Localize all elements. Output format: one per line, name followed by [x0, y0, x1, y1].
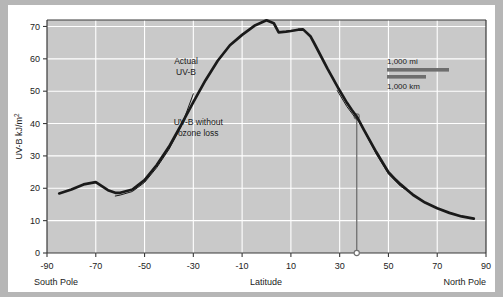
y-tick-label: 50 [30, 86, 40, 96]
south-pole-label: South Pole [34, 277, 78, 287]
x-tick-label: -90 [40, 261, 53, 271]
chart-canvas: 010203040506070 -90-70-50-30-10103050709… [8, 5, 495, 292]
x-tick-label: 70 [432, 261, 442, 271]
y-tick-label: 30 [30, 151, 40, 161]
y-tick-label: 10 [30, 216, 40, 226]
x-tick-label: -50 [138, 261, 151, 271]
actual-uv-b-label: ActualUV-B [174, 56, 198, 77]
x-tick-label: 10 [286, 261, 296, 271]
y-axis-tick-labels: 010203040506070 [30, 22, 40, 259]
x-tick-label: -70 [89, 261, 102, 271]
annotation-line: UV-B without [174, 117, 224, 127]
y-axis-title-superscript: 2 [13, 113, 20, 117]
y-tick-label: 40 [30, 119, 40, 129]
scale-bar-kilometers [387, 75, 426, 79]
x-tick-label: 50 [383, 261, 393, 271]
plot-background [47, 20, 486, 253]
y-tick-label: 70 [30, 22, 40, 32]
x-axis-ticks [47, 253, 486, 257]
uv-b-without-ozone-loss-label: UV-B withoutozone loss [174, 117, 224, 138]
scale-bar-miles [387, 68, 449, 72]
outer-frame: 010203040506070 -90-70-50-30-10103050709… [0, 0, 503, 297]
scale-kilometers-label: 1,000 km [387, 82, 420, 91]
figure-card: 010203040506070 -90-70-50-30-10103050709… [8, 5, 495, 292]
y-tick-label: 60 [30, 54, 40, 64]
x-tick-label: -10 [236, 261, 249, 271]
y-tick-label: 0 [35, 248, 40, 258]
y-axis-title: UV-B kJ/m2 [13, 113, 24, 160]
x-axis-tick-labels: -90-70-50-30-101030507090 [40, 261, 491, 271]
marker-bottom-circle [354, 250, 359, 255]
x-tick-label: 30 [335, 261, 345, 271]
scale-miles-label: 1,000 mi [387, 57, 418, 66]
y-axis-title-text: UV-B kJ/m2 [13, 113, 24, 160]
x-axis-title-text: Latitude [250, 277, 282, 287]
annotation-line: ozone loss [178, 128, 219, 138]
north-pole-label: North Pole [443, 277, 486, 287]
x-tick-label: 90 [481, 261, 491, 271]
annotation-line: UV-B [176, 67, 196, 77]
y-tick-label: 20 [30, 183, 40, 193]
x-tick-label: -30 [187, 261, 200, 271]
annotation-line: Actual [174, 56, 198, 66]
uv-b-latitude-chart: 010203040506070 -90-70-50-30-10103050709… [8, 5, 495, 292]
